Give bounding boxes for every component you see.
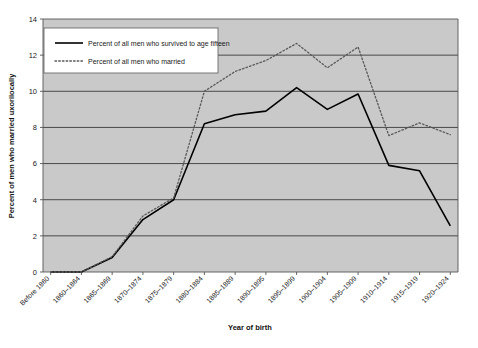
y-axis-tick-label: 6	[33, 159, 37, 168]
legend-label-married: Percent of all men who married	[88, 58, 185, 65]
x-axis-title: Year of birth	[228, 323, 272, 332]
chart-figure: 02468101214 Before 18601860–18641865–186…	[0, 0, 478, 348]
chart-legend[interactable]: Percent of all men who survived to age f…	[44, 28, 230, 73]
legend-box	[44, 28, 218, 73]
y-axis-tick-label: 8	[33, 123, 37, 132]
y-axis-title: Percent of men who married uxorilocally	[7, 73, 16, 218]
y-axis-tick-label: 14	[29, 15, 37, 24]
y-axis-tick-label: 4	[33, 196, 37, 205]
y-axis-tick-label: 10	[29, 87, 37, 96]
y-axis-tick-label: 0	[33, 268, 37, 277]
legend-label-survived: Percent of all men who survived to age f…	[88, 40, 230, 48]
line-chart-canvas: 02468101214 Before 18601860–18641865–186…	[0, 0, 478, 348]
y-axis-tick-label: 12	[29, 51, 37, 60]
y-axis-tick-label: 2	[33, 232, 37, 241]
